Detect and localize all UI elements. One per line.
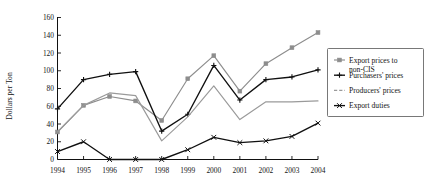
y-axis-tick-labels: 020406080100120140160 <box>43 13 54 164</box>
x-tick-label: 2003 <box>285 166 300 175</box>
legend-label: Export prices to <box>349 56 398 65</box>
data-point-marker <box>316 121 321 126</box>
series-group <box>55 31 321 162</box>
y-tick-label: 40 <box>47 120 55 129</box>
line-chart: Dollars per Ton 020406080100120140160 19… <box>0 0 427 188</box>
y-tick-label: 20 <box>47 137 55 146</box>
x-tick-label: 1996 <box>102 166 117 175</box>
x-tick-label: 1994 <box>50 166 65 175</box>
x-tick-label: 1997 <box>128 166 143 175</box>
data-point-marker <box>264 62 268 66</box>
data-point-marker <box>186 77 190 81</box>
x-tick-label: 1999 <box>180 166 195 175</box>
data-point-marker <box>160 119 164 123</box>
series-4 <box>55 121 320 162</box>
legend-label: Export duties <box>349 101 390 110</box>
x-tick-label: 2001 <box>232 166 247 175</box>
data-point-marker <box>212 54 216 58</box>
y-tick-label: 60 <box>47 102 55 111</box>
data-point-marker <box>289 74 294 79</box>
legend-label: Purchasers' prices <box>349 71 403 80</box>
data-point-marker <box>134 99 138 103</box>
x-tick-label: 2000 <box>206 166 221 175</box>
series-1 <box>56 31 320 134</box>
data-point-marker <box>108 95 112 99</box>
x-axis-tick-labels: 1994199519961997199819992000200120022003… <box>50 166 326 175</box>
data-point-marker <box>133 69 138 74</box>
data-point-marker <box>316 31 320 35</box>
x-tick-label: 2002 <box>259 166 274 175</box>
data-point-marker <box>315 67 320 72</box>
data-point-marker <box>338 58 342 62</box>
series-line <box>58 65 319 131</box>
series-2 <box>55 63 321 134</box>
data-point-marker <box>238 89 242 93</box>
y-tick-label: 80 <box>47 84 55 93</box>
y-tick-label: 140 <box>43 31 54 40</box>
x-tick-label: 2004 <box>311 166 326 175</box>
x-tick-label: 1995 <box>76 166 91 175</box>
series-line <box>58 123 319 159</box>
y-tick-label: 100 <box>43 66 54 75</box>
y-tick-label: 120 <box>43 49 54 58</box>
chart-container: Dollars per Ton 020406080100120140160 19… <box>0 0 427 188</box>
legend-label: Producers' prices <box>349 86 401 95</box>
y-axis-title: Dollars per Ton <box>5 72 14 120</box>
y-tick-label: 0 <box>50 155 54 164</box>
data-point-marker <box>290 46 294 50</box>
data-point-marker <box>107 72 112 77</box>
x-tick-label: 1998 <box>154 166 169 175</box>
y-tick-label: 160 <box>43 13 54 22</box>
